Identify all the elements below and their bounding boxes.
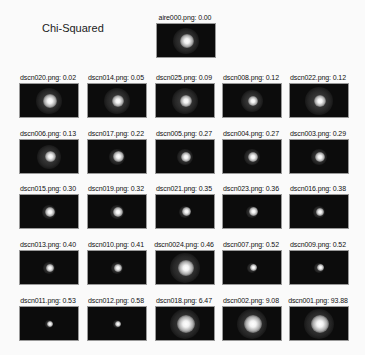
thumbnail-label: aire000.png: 0.00 xyxy=(145,13,225,22)
bright-spot xyxy=(113,207,123,217)
thumbnail-image xyxy=(222,250,282,285)
thumbnail-image xyxy=(19,139,79,174)
bright-spot xyxy=(182,207,191,216)
thumbnail-image xyxy=(289,139,349,174)
thumbnail-image xyxy=(155,194,215,229)
thumbnail-image xyxy=(289,250,349,285)
bright-spot xyxy=(45,207,55,217)
thumbnail-image xyxy=(289,194,349,229)
bright-spot xyxy=(114,264,122,272)
bright-spot xyxy=(115,321,121,327)
thumbnail-image xyxy=(156,23,216,58)
thumbnail-image xyxy=(155,250,215,285)
bright-spot xyxy=(244,315,262,333)
thumbnail-image xyxy=(222,306,282,341)
thumbnail-image xyxy=(87,250,147,285)
bright-spot xyxy=(250,264,257,271)
thumbnail-label: dscn001.png: 93.88 xyxy=(278,296,358,305)
thumbnail-image xyxy=(19,83,79,118)
bright-spot xyxy=(180,95,192,107)
bright-spot xyxy=(249,207,258,216)
bright-spot xyxy=(177,315,195,333)
bright-spot xyxy=(180,34,194,48)
bright-spot xyxy=(248,96,258,106)
thumbnail-image xyxy=(155,306,215,341)
chart-title: Chi-Squared xyxy=(42,22,104,34)
bright-spot xyxy=(113,151,124,162)
thumbnail-label: dscn003.png: 0.29 xyxy=(278,129,358,138)
thumbnail-image xyxy=(19,194,79,229)
bright-spot xyxy=(314,95,326,107)
bright-spot xyxy=(181,152,191,162)
bright-spot xyxy=(112,95,124,107)
thumbnail-image xyxy=(222,194,282,229)
thumbnail-label: dscn009.png: 0.52 xyxy=(278,240,358,249)
thumbnail-image xyxy=(87,306,147,341)
thumbnail-label: dscn016.png: 0.38 xyxy=(278,184,358,193)
bright-spot xyxy=(317,264,324,271)
thumbnail-image xyxy=(87,139,147,174)
thumbnail-label: dscn022.png: 0.12 xyxy=(278,73,358,82)
bright-spot xyxy=(46,264,54,272)
thumbnail-image xyxy=(222,83,282,118)
thumbnail-image xyxy=(155,139,215,174)
bright-spot xyxy=(43,94,57,108)
thumbnail-image xyxy=(87,194,147,229)
thumbnail-image xyxy=(19,250,79,285)
bright-spot xyxy=(45,151,56,162)
bright-spot xyxy=(248,152,258,162)
bright-spot xyxy=(47,321,53,327)
thumbnail-image xyxy=(87,83,147,118)
bright-spot xyxy=(316,208,324,216)
thumbnail-image xyxy=(222,139,282,174)
thumbnail-image xyxy=(289,306,349,341)
thumbnail-image xyxy=(19,306,79,341)
bright-spot xyxy=(178,260,194,276)
thumbnail-image xyxy=(155,83,215,118)
bright-spot xyxy=(311,315,329,333)
thumbnail-image xyxy=(289,83,349,118)
bright-spot xyxy=(315,152,325,162)
